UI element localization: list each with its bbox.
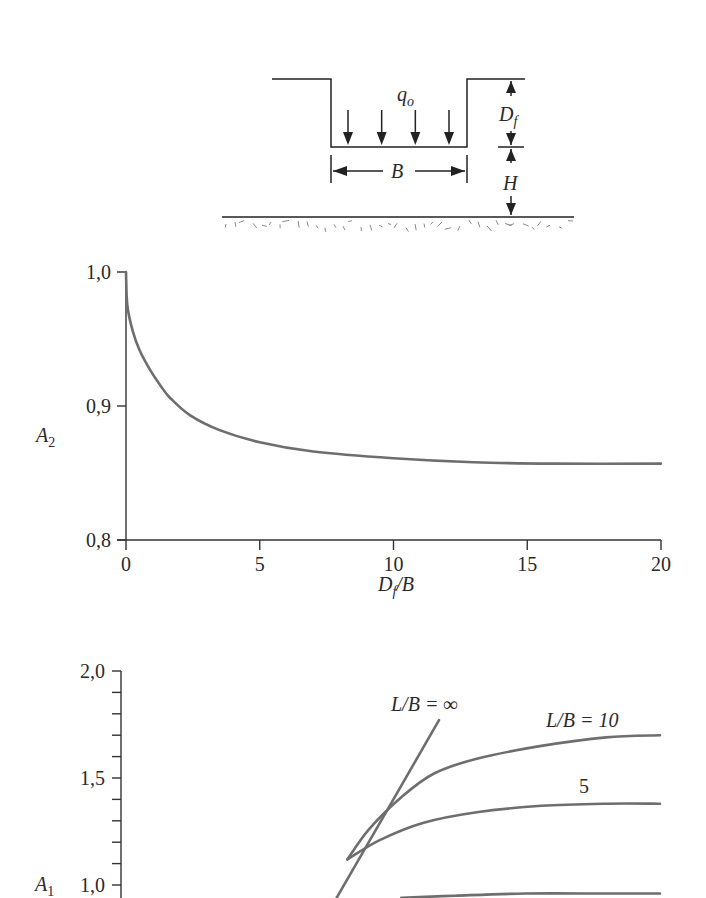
a1-curves — [337, 720, 660, 898]
load-label: qo — [397, 83, 414, 109]
arrowhead-icon — [343, 132, 353, 145]
chart-a1: 1,01,52,0 A1 L/B = ∞ L/B = 10 5 — [33, 660, 660, 898]
x-tick-label: 5 — [255, 553, 265, 575]
arrowhead-icon — [333, 166, 347, 176]
x-axis-label: Df/B — [377, 573, 414, 599]
series-label-5: 5 — [579, 775, 589, 797]
series-label-infinity: L/B = ∞ — [390, 693, 458, 715]
arrowhead-icon — [506, 81, 516, 93]
footing-diagram: qo B Df H — [222, 79, 574, 232]
x-tick-label: 10 — [384, 553, 404, 575]
x-tick-label: 0 — [121, 553, 131, 575]
arrowhead-icon — [451, 166, 465, 176]
arrowhead-icon — [506, 149, 516, 161]
y-tick-label: 2,0 — [80, 660, 105, 682]
arrowhead-icon — [377, 132, 387, 145]
y-tick-label: 0,9 — [86, 395, 111, 417]
y-tick-label: 1,5 — [80, 767, 105, 789]
arrowhead-icon — [444, 132, 454, 145]
a1-curve-3 — [401, 893, 660, 897]
rock-hatch — [225, 220, 573, 232]
x-tick-label: 15 — [517, 553, 537, 575]
arrowhead-icon — [506, 203, 516, 215]
x-tick-label: 20 — [651, 553, 671, 575]
chart-a2-axes: 051015200,80,91,0 — [86, 261, 671, 575]
arrowhead-icon — [410, 132, 420, 145]
y-tick-label: 0,8 — [86, 529, 111, 551]
chart-a2: 051015200,80,91,0 A2 Df/B — [34, 261, 671, 599]
chart-a1-axes: 1,01,52,0 — [80, 660, 121, 898]
a1-curve-2 — [347, 804, 660, 860]
depth-label: Df — [498, 103, 519, 129]
y-axis-label: A1 — [33, 873, 54, 898]
y-tick-label: 1,0 — [80, 874, 105, 896]
arrowhead-icon — [506, 133, 516, 145]
a2-curve — [126, 272, 661, 464]
width-label: B — [391, 160, 403, 182]
y-tick-label: 1,0 — [86, 261, 111, 283]
figure: qo B Df H 051015200,80,91,0 A2 Df/B 1,01… — [0, 0, 706, 898]
load-arrows — [343, 110, 454, 145]
y-axis-label: A2 — [34, 424, 55, 450]
layer-label: H — [502, 172, 519, 194]
series-label-10: L/B = 10 — [545, 709, 618, 731]
